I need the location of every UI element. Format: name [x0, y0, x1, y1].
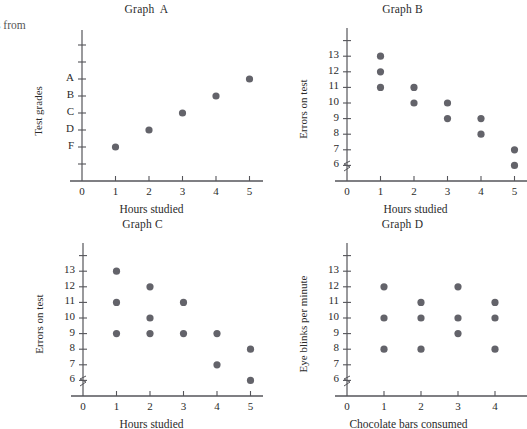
y-tick-label: 12	[313, 64, 339, 76]
data-point	[377, 53, 384, 60]
data-point	[145, 126, 152, 133]
x-tick-label: 1	[104, 185, 128, 197]
x-axis-label: Hours studied	[0, 203, 263, 215]
y-axis-label: Eye blinks per minute	[297, 264, 309, 384]
data-point	[247, 377, 254, 384]
x-tick-label: 3	[171, 185, 195, 197]
data-point	[454, 314, 461, 321]
y-tick-label: 12	[313, 279, 339, 291]
x-tick-label: 2	[138, 400, 162, 412]
data-point	[180, 299, 187, 306]
y-tick-label: 13	[313, 263, 339, 275]
data-point	[180, 330, 187, 337]
data-point	[213, 330, 220, 337]
data-point	[247, 346, 254, 353]
data-point	[511, 146, 518, 153]
x-tick-label: 5	[503, 185, 527, 197]
y-tick-label: B	[48, 88, 74, 100]
data-point	[454, 283, 461, 290]
x-tick-label: 0	[335, 400, 359, 412]
data-point	[113, 268, 120, 275]
y-tick-label: 11	[313, 294, 339, 306]
scatter-plot-graph-c: 131211109876012345Hours studiedErrors on…	[0, 215, 263, 429]
x-tick-label: 4	[205, 400, 229, 412]
data-point	[212, 92, 219, 99]
y-tick-label: 9	[313, 111, 339, 123]
data-point	[146, 283, 153, 290]
x-tick-label: 3	[172, 400, 196, 412]
scatter-plot-graph-b: 131211109876012345Hours studiedErrors on…	[264, 0, 527, 214]
y-tick-label: 6	[49, 372, 75, 384]
y-tick-label: 6	[313, 157, 339, 169]
y-tick-label: 9	[313, 326, 339, 338]
y-tick-label: D	[48, 122, 74, 134]
chart-panel-graph-b: Graph B 131211109876012345Hours studiedE…	[264, 0, 527, 214]
data-point	[491, 299, 498, 306]
y-tick-label: F	[48, 139, 74, 151]
scatter-plot-graph-d: 13121110987601234Chocolate bars consumed…	[264, 215, 527, 429]
y-tick-label: C	[48, 105, 74, 117]
x-tick-label: 2	[409, 400, 433, 412]
y-tick-label: 10	[313, 310, 339, 322]
x-tick-label: 4	[204, 185, 228, 197]
y-axis-label: Errors on test	[33, 264, 45, 384]
x-tick-label: 1	[369, 185, 393, 197]
y-axis-label: Errors on test	[297, 49, 309, 169]
data-point	[179, 109, 186, 116]
data-point	[417, 299, 424, 306]
y-axis-label: Test grades	[32, 51, 44, 171]
data-point	[477, 115, 484, 122]
data-point	[380, 346, 387, 353]
y-tick-label: 12	[49, 279, 75, 291]
scatter-plot-graph-a: ABCDF012345Hours studiedTest grades	[0, 0, 263, 214]
y-tick-label: 8	[313, 126, 339, 138]
x-tick-label: 3	[446, 400, 470, 412]
y-tick-label: 7	[49, 357, 75, 369]
chart-panel-graph-c: Graph C 131211109876012345Hours studiedE…	[0, 215, 263, 429]
data-point	[417, 314, 424, 321]
data-point	[113, 299, 120, 306]
y-tick-label: A	[48, 71, 74, 83]
x-tick-label: 0	[70, 185, 94, 197]
data-point	[380, 314, 387, 321]
y-tick-label: 13	[49, 263, 75, 275]
data-point	[410, 84, 417, 91]
data-point	[377, 84, 384, 91]
x-axis-label: Hours studied	[264, 203, 527, 215]
y-tick-label: 8	[313, 341, 339, 353]
x-tick-label: 4	[483, 400, 507, 412]
data-point	[380, 283, 387, 290]
x-tick-label: 2	[137, 185, 161, 197]
data-point	[112, 143, 119, 150]
x-tick-label: 1	[372, 400, 396, 412]
x-axis-label: Chocolate bars consumed	[264, 418, 527, 429]
data-point	[511, 162, 518, 169]
x-tick-label: 3	[436, 185, 460, 197]
y-tick-label: 7	[313, 357, 339, 369]
y-tick-label: 11	[313, 79, 339, 91]
y-tick-label: 11	[49, 294, 75, 306]
chart-panel-graph-a: Graph A ABCDF012345Hours studiedTest gra…	[0, 0, 263, 214]
data-point	[213, 361, 220, 368]
y-tick-label: 10	[49, 310, 75, 322]
data-point	[491, 314, 498, 321]
x-tick-label: 0	[71, 400, 95, 412]
data-point	[146, 330, 153, 337]
x-tick-label: 4	[469, 185, 493, 197]
data-point	[417, 346, 424, 353]
x-tick-label: 2	[402, 185, 426, 197]
x-tick-label: 1	[105, 400, 129, 412]
y-tick-label: 10	[313, 95, 339, 107]
data-point	[491, 346, 498, 353]
data-point	[246, 75, 253, 82]
y-tick-label: 6	[313, 372, 339, 384]
data-point	[477, 131, 484, 138]
x-tick-label: 0	[335, 185, 359, 197]
data-point	[113, 330, 120, 337]
data-point	[444, 99, 451, 106]
y-tick-label: 7	[313, 142, 339, 154]
y-tick-label: 13	[313, 48, 339, 60]
x-tick-label: 5	[239, 400, 263, 412]
y-tick-label: 8	[49, 341, 75, 353]
chart-panel-graph-d: Graph D 13121110987601234Chocolate bars …	[264, 215, 527, 429]
